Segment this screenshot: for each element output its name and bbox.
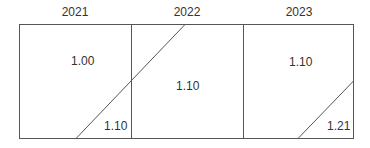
diagonal-1 bbox=[76, 25, 185, 139]
value-2021-top: 1.00 bbox=[71, 54, 94, 68]
value-2022: 1.10 bbox=[176, 79, 199, 93]
header-2021: 2021 bbox=[19, 5, 131, 19]
value-2023-bottom: 1.21 bbox=[327, 119, 350, 133]
diagram-lines bbox=[0, 0, 370, 148]
value-2021-bottom: 1.10 bbox=[104, 119, 127, 133]
header-2022: 2022 bbox=[131, 5, 243, 19]
value-2023-top: 1.10 bbox=[289, 55, 312, 69]
header-2023: 2023 bbox=[243, 5, 355, 19]
